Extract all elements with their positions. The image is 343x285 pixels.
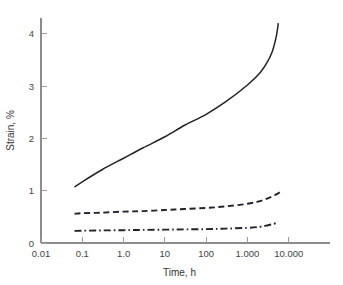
x-tick-label: 0.1: [76, 248, 89, 259]
y-axis-ticks: [41, 34, 47, 243]
creep-strain-chart: 0.010.11.0101001.00010.000 01234 Time, h…: [0, 0, 343, 285]
y-axis-tick-labels: 01234: [29, 28, 34, 248]
chart-container: 0.010.11.0101001.00010.000 01234 Time, h…: [0, 0, 343, 285]
x-axis-title: Time, h: [163, 267, 196, 278]
x-tick-label: 1.0: [117, 248, 130, 259]
y-axis-title: Strain, %: [5, 110, 16, 151]
data-series-group: [75, 23, 281, 231]
y-tick-label: 1: [29, 185, 34, 196]
y-tick-label: 4: [29, 28, 34, 39]
y-tick-label: 2: [29, 133, 34, 144]
x-tick-label: 1.000: [236, 248, 260, 259]
series-lower-curve: [75, 223, 277, 231]
series-middle-curve: [75, 192, 281, 213]
x-tick-label: 100: [198, 248, 214, 259]
x-tick-label: 10.000: [274, 248, 303, 259]
x-axis-tick-labels: 0.010.11.0101001.00010.000: [32, 248, 303, 259]
x-axis-ticks: [41, 237, 289, 243]
series-upper-curve: [75, 23, 279, 187]
y-tick-label: 0: [29, 238, 34, 249]
x-tick-label: 10: [160, 248, 171, 259]
x-tick-label: 0.01: [32, 248, 51, 259]
y-tick-label: 3: [29, 81, 34, 92]
